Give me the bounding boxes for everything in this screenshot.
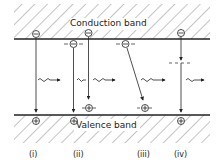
photon-icon xyxy=(186,79,194,82)
case-iv-transition xyxy=(169,30,204,125)
photon-icon xyxy=(38,79,50,82)
case-iii-transition xyxy=(116,41,165,112)
photon-icon xyxy=(77,79,83,82)
photon-icon xyxy=(141,79,153,82)
case-label-ii: (ii) xyxy=(73,150,84,159)
case-ii-transition xyxy=(64,30,115,125)
case-label-iv: (iv) xyxy=(174,150,187,159)
valence-band-label: Valence band xyxy=(76,120,137,130)
case-label-iii: (iii) xyxy=(137,150,150,159)
photon-icon xyxy=(93,79,105,82)
conduction-band-label: Conduction band xyxy=(70,18,147,28)
case-i-transition xyxy=(33,31,61,125)
case-label-i: (i) xyxy=(29,150,37,159)
